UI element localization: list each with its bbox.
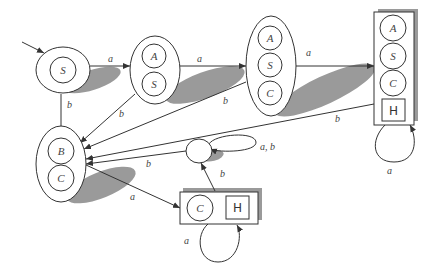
state-asch-label-s: S bbox=[390, 50, 396, 62]
edge-ch-loop bbox=[200, 224, 239, 262]
state-asch-label-a: A bbox=[389, 22, 397, 34]
edge-start bbox=[22, 42, 44, 53]
edge-dead-loop bbox=[209, 135, 256, 151]
state-asc-label-c: C bbox=[266, 87, 274, 99]
state-ch-label-h: H bbox=[233, 201, 242, 215]
edge-label-asch-loop: a bbox=[387, 165, 392, 176]
state-ch bbox=[180, 192, 258, 224]
state-bc-label-b: B bbox=[58, 145, 65, 157]
state-asch-label-c: C bbox=[389, 77, 397, 89]
state-bc-label-c: C bbox=[57, 172, 65, 184]
state-asc-label-s: S bbox=[267, 59, 273, 71]
edge-label-as-asc: a bbox=[197, 53, 202, 64]
state-as-label-a: A bbox=[150, 50, 158, 62]
edge-as-bc bbox=[80, 94, 135, 143]
edge-ch-dead bbox=[201, 163, 215, 191]
state-bc bbox=[36, 126, 86, 202]
state-asch-label-h: H bbox=[389, 104, 398, 118]
edge-label-bc-ch: a bbox=[130, 191, 135, 202]
edge-label-dead-loop: a, b bbox=[260, 141, 275, 152]
edge-asch-loop bbox=[375, 125, 414, 162]
state-dead bbox=[186, 139, 212, 163]
edge-label-asch-bc: b bbox=[335, 113, 340, 124]
edge-label-asc-asch: a bbox=[306, 47, 311, 58]
edge-label-asc-bc: b bbox=[223, 95, 228, 106]
state-ch-label-c: C bbox=[196, 202, 204, 214]
edge-label-as-bc: b bbox=[119, 108, 124, 119]
edge-label-dead-bc: b bbox=[146, 158, 151, 169]
edge-label-s-as: a bbox=[108, 53, 113, 64]
edge-label-ch-dead: b bbox=[220, 168, 225, 179]
state-s-label: S bbox=[60, 64, 66, 76]
state-as bbox=[130, 36, 180, 104]
edge-asch-bc bbox=[86, 104, 374, 159]
automaton-diagram: S A S A S C A S C H B C C H bbox=[0, 0, 436, 272]
edge-dead-bc bbox=[86, 151, 186, 164]
state-asc-label-a: A bbox=[266, 32, 274, 44]
edge-label-ch-loop: a bbox=[184, 235, 189, 246]
edge-label-s-bc: b bbox=[67, 99, 72, 110]
shadows bbox=[60, 9, 418, 220]
state-as-label-s: S bbox=[151, 78, 157, 90]
